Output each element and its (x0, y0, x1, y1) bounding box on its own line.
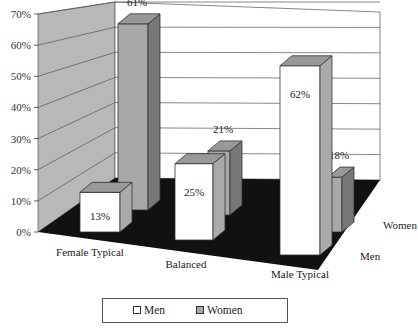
svg-text:70%: 70% (11, 8, 31, 20)
svg-text:50%: 50% (11, 70, 31, 82)
bar-men-1: 25% (175, 154, 225, 240)
svg-text:13%: 13% (90, 210, 110, 222)
svg-text:30%: 30% (11, 133, 31, 145)
svg-text:21%: 21% (213, 123, 233, 135)
women-swatch (196, 306, 204, 314)
legend: Men Women (102, 298, 288, 323)
legend-item-women: Women (196, 304, 242, 316)
legend-item-men: Men (133, 304, 165, 316)
svg-text:10%: 10% (11, 195, 31, 207)
legend-label-men: Men (144, 304, 165, 316)
svg-text:20%: 20% (11, 164, 31, 176)
svg-text:61%: 61% (127, 0, 147, 8)
svg-text:40%: 40% (11, 101, 31, 113)
svg-text:60%: 60% (11, 39, 31, 51)
svg-text:62%: 62% (290, 88, 310, 100)
bar-men-0: 13% (80, 182, 132, 232)
svg-text:25%: 25% (184, 186, 204, 198)
svg-text:Female Typical: Female Typical (56, 246, 124, 258)
svg-text:Male Typical: Male Typical (271, 268, 329, 280)
svg-text:0%: 0% (16, 226, 31, 238)
legend-label-women: Women (207, 304, 242, 316)
svg-text:Balanced: Balanced (166, 258, 207, 270)
y-axis-ticks: 0%10%20%30%40%50%60%70% (11, 8, 38, 238)
bar-men-2: 62% (280, 56, 332, 255)
men-swatch (133, 306, 141, 314)
depth-label-women: Women (383, 219, 417, 231)
chart-canvas: 61%21%18%13%25%62% 0%10%20%30%40%50%60%7… (0, 0, 418, 330)
depth-label-men: Men (360, 250, 381, 262)
bar-women-0: 61% (118, 0, 160, 210)
